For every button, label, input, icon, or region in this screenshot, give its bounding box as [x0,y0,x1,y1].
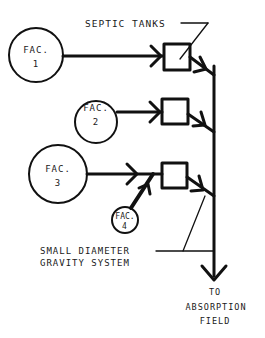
facility-4-number: 4 [122,222,128,231]
facility-1-number: 1 [33,59,39,69]
outlet-label-line1: TO [209,287,221,297]
system-label-line1: SMALL DIAMETER [40,246,130,256]
septic-tanks-label: SEPTIC TANKS [85,18,166,29]
facility-2-number: 2 [93,117,99,127]
septic-tanks-leader-diagonal [180,23,208,59]
facility-4-name: FAC. [115,212,134,221]
septic-tank-2 [162,99,188,124]
outlet-label-line2: ABSORPTION [185,302,246,312]
facility-3-number: 3 [55,178,61,188]
facility-1-name: FAC. [23,45,49,55]
septic-tank-3 [162,163,187,188]
facility-3-name: FAC. [45,164,71,174]
outlet-label-line3: FIELD [200,316,231,326]
system-leader-diagonal [183,196,205,251]
system-label-line2: GRAVITY SYSTEM [40,258,130,268]
facility-2-name: FAC. [83,103,109,113]
septic-tank-1 [164,44,190,70]
facility-3-circle [29,145,87,203]
facility-1-circle [9,28,63,82]
septic-system-diagram: SEPTIC TANKS FAC. 1 FAC. 2 FAC. 3 FAC. 4… [0,0,265,338]
